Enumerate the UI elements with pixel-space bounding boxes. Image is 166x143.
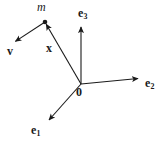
origin-label: 0	[76, 86, 82, 98]
basis-vectors	[49, 27, 138, 120]
basis-vector-e2-subscript: 2	[150, 82, 154, 91]
basis-vector-e2-arrow	[81, 79, 138, 85]
basis-vector-e1-label: e1	[31, 124, 40, 136]
vector-diagram: m v x e3 e2 e1 0	[0, 0, 166, 143]
position-vector-label: x	[46, 42, 52, 54]
velocity-vector-label: v	[7, 45, 13, 57]
basis-vector-e1-subscript: 1	[36, 129, 40, 138]
basis-vector-e2-label: e2	[145, 77, 154, 89]
basis-vector-e3-subscript: 3	[83, 12, 87, 21]
velocity-vector-arrow	[15, 22, 45, 41]
basis-vector-e3-label: e3	[78, 7, 87, 19]
mass-point-marker	[43, 20, 48, 25]
diagram-canvas	[0, 0, 166, 143]
mass-label: m	[37, 1, 46, 13]
